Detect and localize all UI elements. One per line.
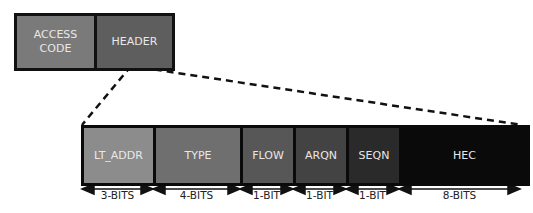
field-header: HEADER bbox=[97, 16, 172, 68]
field-lt-addr: LT_ADDR bbox=[84, 128, 153, 183]
field-label: ACCESS bbox=[34, 28, 78, 42]
bits-label-hec: 8-BITS bbox=[399, 189, 520, 201]
bits-label-flow: 1-BIT bbox=[240, 189, 293, 201]
field-label: FLOW bbox=[252, 149, 284, 163]
field-label: CODE bbox=[40, 42, 72, 56]
field-label: SEQN bbox=[359, 149, 390, 163]
bits-label-arqn: 1-BIT bbox=[293, 189, 346, 201]
field-access-code: ACCESS CODE bbox=[17, 16, 94, 68]
field-flow: FLOW bbox=[243, 128, 293, 183]
header-detail: LT_ADDR TYPE FLOW ARQN SEQN HEC bbox=[81, 125, 530, 186]
field-seqn: SEQN bbox=[349, 128, 399, 183]
field-label: TYPE bbox=[184, 149, 211, 163]
field-label: HEADER bbox=[112, 35, 158, 49]
bits-label-seqn: 1-BIT bbox=[346, 189, 399, 201]
field-label: LT_ADDR bbox=[94, 149, 143, 163]
field-hec: HEC bbox=[402, 128, 527, 183]
field-label: ARQN bbox=[305, 149, 337, 163]
field-arqn: ARQN bbox=[296, 128, 346, 183]
field-type: TYPE bbox=[156, 128, 240, 183]
field-label: HEC bbox=[453, 149, 476, 163]
bits-label-lt-addr: 3-BITS bbox=[82, 189, 153, 201]
bits-label-type: 4-BITS bbox=[153, 189, 240, 201]
packet-overview: ACCESS CODE HEADER bbox=[14, 13, 175, 71]
